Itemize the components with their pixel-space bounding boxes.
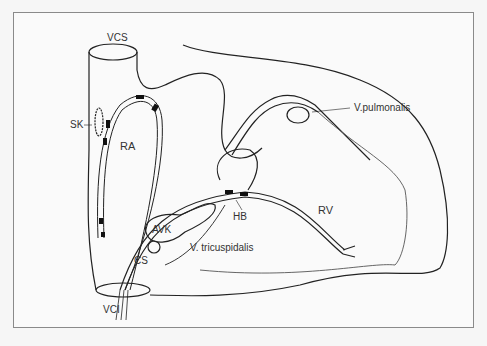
- pulmonary-valve: [287, 107, 309, 123]
- label-hb: HB: [233, 211, 247, 222]
- vcs-left-wall: [88, 52, 96, 290]
- label-v-tricuspidalis: V. tricuspidalis: [190, 242, 254, 253]
- rv-lead-tip: [343, 246, 355, 257]
- sinus-node: [95, 108, 103, 136]
- pulmonary-trunk: [225, 95, 370, 160]
- heart-diagram: [0, 0, 487, 346]
- pulmonary-inner: [232, 103, 318, 155]
- label-v-pulmonalis: V.pulmonalis: [354, 102, 410, 113]
- label-ra: RA: [120, 140, 135, 152]
- label-vcs: VCS: [107, 32, 128, 43]
- label-rv: RV: [318, 204, 333, 216]
- ra-catheter-inner: [104, 101, 158, 290]
- label-cs: CS: [134, 255, 148, 266]
- coronary-sinus: [148, 241, 160, 253]
- label-sk: SK: [70, 119, 83, 130]
- label-avk: AVK: [152, 224, 171, 235]
- vci-opening: [96, 283, 150, 297]
- vcs-opening: [89, 44, 137, 60]
- label-vci: VCI: [103, 304, 120, 315]
- heart-outer-contour: [150, 45, 448, 296]
